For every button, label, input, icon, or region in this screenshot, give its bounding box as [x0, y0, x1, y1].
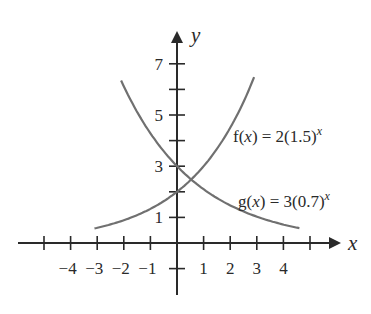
labels: −4−3−2−112341357xyf(x) = 2(1.5)xg(x) = 3…: [59, 23, 358, 278]
y-tick-label: 1: [155, 208, 164, 227]
x-axis-arrow-icon: [329, 237, 341, 249]
axes: [18, 31, 341, 295]
x-tick-label: 3: [253, 259, 262, 278]
x-tick-label: 4: [279, 259, 288, 278]
x-tick-label: −2: [112, 259, 130, 278]
y-tick-label: 3: [155, 157, 164, 176]
y-tick-label: 7: [155, 55, 164, 74]
x-tick-label: −3: [85, 259, 103, 278]
y-axis-arrow-icon: [171, 31, 183, 43]
y-axis-label: y: [189, 23, 201, 47]
label-f: f(x) = 2(1.5)x: [233, 124, 323, 146]
y-tick-label: 5: [155, 106, 164, 125]
x-tick-label: −4: [59, 259, 78, 278]
x-tick-label: 2: [226, 259, 235, 278]
x-tick-label: 1: [199, 259, 208, 278]
x-axis-label: x: [347, 231, 358, 255]
chart-plot: −4−3−2−112341357xyf(x) = 2(1.5)xg(x) = 3…: [0, 0, 371, 314]
x-tick-label: −1: [138, 259, 156, 278]
label-g: g(x) = 3(0.7)x: [238, 189, 331, 211]
